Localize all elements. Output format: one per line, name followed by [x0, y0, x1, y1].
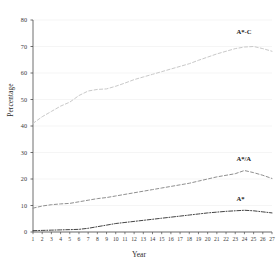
x-axis-title: Year — [0, 250, 278, 259]
y-tick-label: 10 — [9, 202, 27, 209]
y-tick-label: 50 — [9, 96, 27, 103]
y-tick-label: 60 — [9, 69, 27, 76]
line-chart: Percentage Year 01020304050607080 123456… — [0, 0, 278, 266]
y-tick-label: 20 — [9, 175, 27, 182]
y-tick-label: 80 — [9, 16, 27, 23]
series-line-3 — [33, 210, 272, 230]
series-label-2: A*/A — [236, 155, 251, 162]
series-label-1: A*-C — [236, 28, 251, 35]
chart-plot-area — [0, 0, 278, 266]
series-line-2 — [33, 171, 272, 209]
x-tick-label: 27 — [266, 236, 278, 242]
y-tick-label: 70 — [9, 43, 27, 50]
y-tick-label: 0 — [9, 228, 27, 235]
series-line-1 — [33, 47, 272, 124]
series-label-3: A* — [236, 195, 244, 202]
y-tick-label: 40 — [9, 122, 27, 129]
y-tick-label: 30 — [9, 149, 27, 156]
